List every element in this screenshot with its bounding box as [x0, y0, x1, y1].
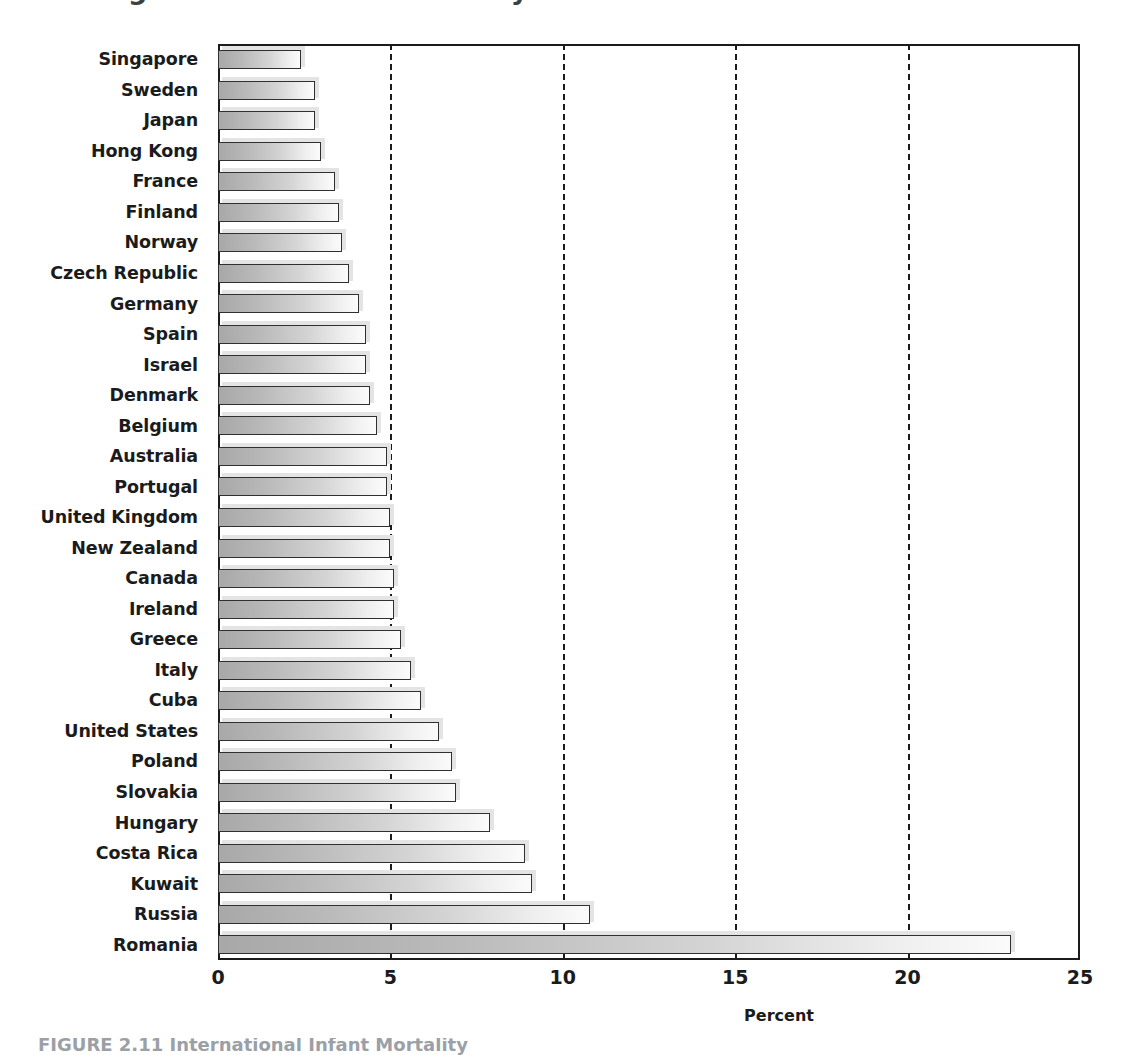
bar-portugal: [218, 477, 387, 496]
bar-spain: [218, 325, 366, 344]
x-axis-tick-5: 5: [384, 966, 397, 988]
y-axis-label-canada: Canada: [0, 563, 208, 594]
bar-row: [218, 563, 1080, 594]
bar-row: [218, 441, 1080, 472]
y-axis-label-kuwait: Kuwait: [0, 868, 208, 899]
bar-row: [218, 746, 1080, 777]
bar-row: [218, 227, 1080, 258]
bar-row: [218, 868, 1080, 899]
y-axis-label-costa-rica: Costa Rica: [0, 838, 208, 869]
bar-sweden: [218, 81, 315, 100]
bar-row: [218, 288, 1080, 319]
x-axis-tick-0: 0: [211, 966, 224, 988]
y-axis-label-united-kingdom: United Kingdom: [0, 502, 208, 533]
bar-row: [218, 75, 1080, 106]
x-axis-title-text: Percent: [744, 1006, 814, 1025]
bar-canada: [218, 569, 394, 588]
x-axis-tick-10: 10: [550, 966, 576, 988]
y-axis-label-hungary: Hungary: [0, 807, 208, 838]
figure-caption-cropped: FIGURE 2.11 International Infant Mortali…: [0, 1038, 1132, 1055]
bar-costa-rica: [218, 844, 525, 863]
y-axis-label-greece: Greece: [0, 624, 208, 655]
bar-row: [218, 258, 1080, 289]
y-axis-label-slovakia: Slovakia: [0, 777, 208, 808]
x-axis-tick-15: 15: [722, 966, 748, 988]
bar-denmark: [218, 386, 370, 405]
bar-israel: [218, 355, 366, 374]
bar-row: [218, 380, 1080, 411]
y-axis-label-spain: Spain: [0, 319, 208, 350]
bar-row: [218, 44, 1080, 75]
y-axis-label-australia: Australia: [0, 441, 208, 472]
bar-united-states: [218, 722, 439, 741]
bar-poland: [218, 752, 452, 771]
bar-italy: [218, 661, 411, 680]
y-axis-label-cuba: Cuba: [0, 685, 208, 716]
bar-row: [218, 929, 1080, 960]
bar-row: [218, 655, 1080, 686]
bar-row: [218, 533, 1080, 564]
y-axis-label-czech-republic: Czech Republic: [0, 258, 208, 289]
bar-row: [218, 166, 1080, 197]
y-axis-label-russia: Russia: [0, 899, 208, 930]
y-axis-label-united-states: United States: [0, 716, 208, 747]
bar-row: [218, 685, 1080, 716]
bar-slovakia: [218, 783, 456, 802]
y-axis-label-poland: Poland: [0, 746, 208, 777]
bar-united-kingdom: [218, 508, 390, 527]
bar-kuwait: [218, 874, 532, 893]
y-axis-label-singapore: Singapore: [0, 44, 208, 75]
bar-russia: [218, 905, 590, 924]
bar-new-zealand: [218, 539, 390, 558]
bar-australia: [218, 447, 387, 466]
bar-row: [218, 716, 1080, 747]
bar-row: [218, 899, 1080, 930]
y-axis-label-belgium: Belgium: [0, 410, 208, 441]
bar-singapore: [218, 50, 301, 69]
y-axis-label-romania: Romania: [0, 929, 208, 960]
bar-romania: [218, 935, 1011, 954]
bar-row: [218, 105, 1080, 136]
x-axis-title: Percent: [0, 1006, 1132, 1025]
bar-belgium: [218, 416, 377, 435]
bar-japan: [218, 111, 315, 130]
bar-hong-kong: [218, 142, 321, 161]
figure-caption-text: FIGURE 2.11 International Infant Mortali…: [38, 1038, 468, 1055]
y-axis-label-norway: Norway: [0, 227, 208, 258]
bar-row: [218, 502, 1080, 533]
bar-row: [218, 624, 1080, 655]
bar-row: [218, 777, 1080, 808]
bar-norway: [218, 233, 342, 252]
y-axis-label-group: SingaporeSwedenJapanHong KongFranceFinla…: [0, 44, 208, 960]
y-axis-label-portugal: Portugal: [0, 471, 208, 502]
bar-czech-republic: [218, 264, 349, 283]
bar-chart-figure: SingaporeSwedenJapanHong KongFranceFinla…: [0, 0, 1132, 1055]
bar-row: [218, 136, 1080, 167]
bar-france: [218, 172, 335, 191]
x-axis-tick-20: 20: [894, 966, 920, 988]
bar-row: [218, 197, 1080, 228]
y-axis-label-sweden: Sweden: [0, 75, 208, 106]
bar-row: [218, 471, 1080, 502]
y-axis-label-japan: Japan: [0, 105, 208, 136]
bar-greece: [218, 630, 401, 649]
bar-row: [218, 349, 1080, 380]
bar-germany: [218, 294, 359, 313]
bar-row: [218, 410, 1080, 441]
bar-row: [218, 807, 1080, 838]
bar-row: [218, 838, 1080, 869]
y-axis-label-israel: Israel: [0, 349, 208, 380]
y-axis-label-italy: Italy: [0, 655, 208, 686]
y-axis-label-ireland: Ireland: [0, 594, 208, 625]
bar-group: [218, 44, 1080, 960]
x-axis-tick-25: 25: [1067, 966, 1093, 988]
y-axis-label-new-zealand: New Zealand: [0, 533, 208, 564]
bar-hungary: [218, 813, 490, 832]
y-axis-label-finland: Finland: [0, 197, 208, 228]
y-axis-label-germany: Germany: [0, 288, 208, 319]
y-axis-label-france: France: [0, 166, 208, 197]
y-axis-label-denmark: Denmark: [0, 380, 208, 411]
bar-ireland: [218, 600, 394, 619]
bar-cuba: [218, 691, 421, 710]
bar-row: [218, 319, 1080, 350]
